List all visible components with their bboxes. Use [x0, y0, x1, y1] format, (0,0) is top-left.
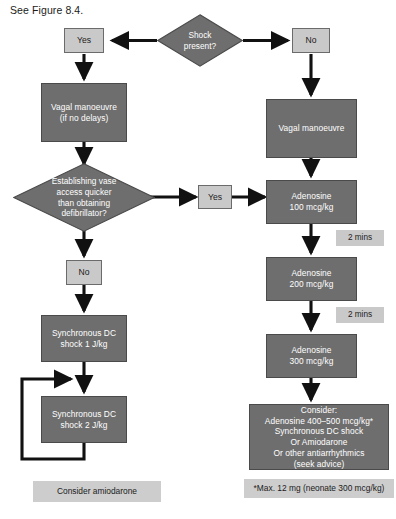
label-no-vascular-text: No: [79, 267, 90, 278]
figure-caption: See Figure 8.4.: [10, 4, 83, 16]
consider-line-6: (seek advice): [294, 459, 344, 470]
consider-line-1: Consider:: [301, 405, 337, 416]
label-yes-vascular[interactable]: Yes: [198, 185, 232, 209]
label-consider-amiodarone[interactable]: Consider amiodarone: [33, 481, 161, 502]
label-yes-vascular-text: Yes: [208, 192, 222, 203]
label-no-vascular[interactable]: No: [66, 260, 102, 285]
consider-line-3: Synchronous DC shock: [275, 426, 364, 437]
label-yes-shock-text: Yes: [77, 35, 91, 46]
consider-line-2: Adenosine 400–500 mcg/kg*: [265, 416, 373, 427]
tag-interval-1: 2 mins: [336, 230, 384, 246]
figure-canvas: See Figure 8.4.: [0, 0, 396, 519]
footnote-max-dose-text: *Max. 12 mg (neonate 300 mcg/kg): [254, 483, 385, 494]
process-consider-options[interactable]: Consider: Adenosine 400–500 mcg/kg* Sync…: [249, 404, 389, 470]
process-vagal-manoeuvre-right-text: Vagal manoeuvre: [279, 123, 345, 134]
label-yes-shock[interactable]: Yes: [64, 28, 104, 53]
consider-line-4: Or Amiodarone: [291, 437, 348, 448]
process-adenosine-200-text: Adenosine 200 mcg/kg: [290, 268, 334, 290]
label-consider-amiodarone-text: Consider amiodarone: [57, 486, 137, 497]
process-vagal-manoeuvre-left-text: Vagal manoeuvre (if no delays): [51, 102, 117, 124]
process-adenosine-300[interactable]: Adenosine 300 mcg/kg: [266, 334, 357, 378]
label-no-shock-text: No: [306, 35, 317, 46]
process-adenosine-200[interactable]: Adenosine 200 mcg/kg: [266, 257, 357, 301]
process-dc-shock-2-text: Synchronous DC shock 2 J/kg: [52, 409, 116, 431]
process-dc-shock-2[interactable]: Synchronous DC shock 2 J/kg: [41, 396, 127, 443]
decision-vascular-access: Establishing vase access quicker than ob…: [13, 163, 155, 232]
decision-shock-present: Shock present?: [157, 14, 243, 67]
process-dc-shock-1[interactable]: Synchronous DC shock 1 J/kg: [41, 315, 127, 362]
process-dc-shock-1-text: Synchronous DC shock 1 J/kg: [52, 328, 116, 350]
process-adenosine-100-text: Adenosine 100 mcg/kg: [290, 191, 334, 213]
decision-vascular-access-label: Establishing vase access quicker than ob…: [46, 176, 123, 219]
label-no-shock[interactable]: No: [292, 28, 330, 53]
tag-interval-2: 2 mins: [336, 307, 384, 323]
footnote-max-dose: *Max. 12 mg (neonate 300 mcg/kg): [244, 479, 394, 498]
tag-interval-1-text: 2 mins: [348, 233, 372, 244]
process-vagal-manoeuvre-right[interactable]: Vagal manoeuvre: [266, 99, 357, 158]
process-adenosine-100[interactable]: Adenosine 100 mcg/kg: [266, 180, 357, 224]
process-vagal-manoeuvre-left[interactable]: Vagal manoeuvre (if no delays): [41, 83, 127, 142]
tag-interval-2-text: 2 mins: [348, 310, 372, 321]
consider-line-5: Or other antiarrhythmics: [273, 448, 364, 459]
process-adenosine-300-text: Adenosine 300 mcg/kg: [290, 345, 334, 367]
decision-shock-present-label: Shock present?: [178, 30, 222, 52]
